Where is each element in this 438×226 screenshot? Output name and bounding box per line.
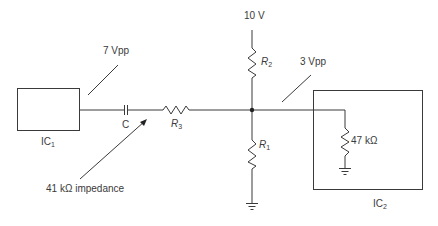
leader-impedance [80, 121, 145, 179]
impedance-note: 41 kΩ impedance [46, 184, 124, 194]
resistor-r1 [248, 140, 256, 169]
supply-label: 10 V [244, 11, 265, 21]
r1-label: R1 [259, 140, 270, 151]
resistor-r2 [248, 48, 256, 78]
resistor-47k [341, 128, 349, 156]
ic1-block [18, 89, 80, 131]
capacitor-label: C [122, 120, 129, 130]
load-resistor-label: 47 kΩ [351, 136, 377, 146]
junction-node [250, 108, 254, 112]
ic2-signal-label: 3 Vpp [300, 57, 326, 67]
ground-icon [339, 169, 351, 175]
r3-label: R3 [171, 119, 182, 130]
ic1-label: IC1 [41, 137, 55, 148]
resistor-r3 [163, 106, 189, 114]
r2-label: R2 [261, 57, 272, 68]
ic2-label: IC2 [373, 199, 387, 210]
leader-7vpp [88, 65, 118, 95]
capacitor-c [125, 105, 128, 115]
ic1-signal-label: 7 Vpp [103, 46, 129, 56]
leader-3vpp [282, 75, 311, 102]
ground-icon [246, 204, 258, 210]
